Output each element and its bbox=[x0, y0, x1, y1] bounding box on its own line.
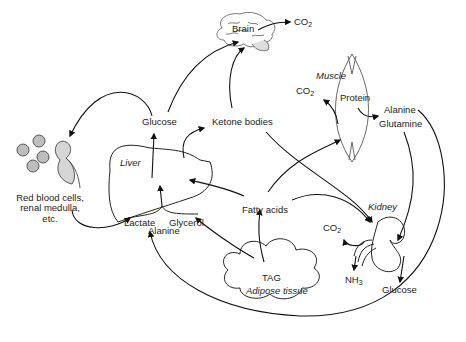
brain-label: Brain bbox=[232, 24, 254, 34]
red-blood-cells-icon bbox=[17, 135, 49, 172]
fatty-acids-label: Fatty acids bbox=[242, 205, 288, 215]
glucose-label: Glucose bbox=[142, 117, 177, 127]
tag-label: TAG bbox=[262, 273, 281, 283]
muscle-alanine-label: Alanine bbox=[384, 105, 416, 115]
liver-label: Liver bbox=[120, 158, 141, 168]
brain-co2-label: CO2 bbox=[294, 17, 312, 29]
muscle-label: Muscle bbox=[316, 71, 346, 81]
kidney-label: Kidney bbox=[368, 202, 397, 212]
protein-label: Protein bbox=[340, 93, 370, 103]
ketone-bodies-label: Ketone bodies bbox=[212, 117, 273, 127]
nh3-label: NH3 bbox=[345, 275, 363, 287]
kidney-glucose-label: Glucose bbox=[382, 285, 417, 295]
adipose-tissue-label: Adipose tissue bbox=[246, 286, 308, 296]
kidney-co2-label: CO2 bbox=[323, 223, 341, 235]
muscle-co2-label: CO2 bbox=[296, 86, 314, 98]
rbc-label: Red blood cells,renal medulla,etc. bbox=[6, 193, 94, 224]
glycerol-label: Glycerol bbox=[169, 218, 204, 228]
muscle-glutamine-label: Glutamine bbox=[379, 119, 422, 129]
renal-medulla-icon bbox=[55, 141, 80, 188]
